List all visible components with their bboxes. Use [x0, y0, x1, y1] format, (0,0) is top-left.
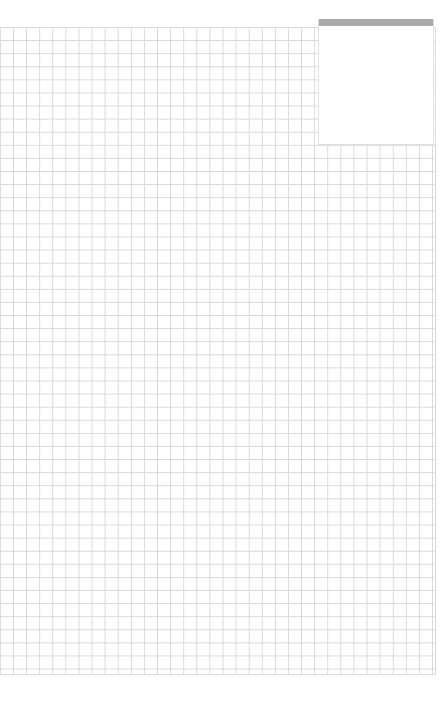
title-block-box — [318, 19, 434, 145]
title-block-header-bar — [319, 19, 433, 26]
